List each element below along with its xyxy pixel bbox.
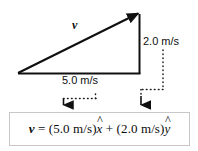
component-equation: v = (5.0 m/s)^x + (2.0 m/s)^y	[29, 121, 171, 137]
resultant-vector-arrow	[18, 14, 138, 74]
equation-term-1: 5.0 m/s	[53, 121, 92, 136]
x-component-label: 5.0 m/s	[62, 75, 98, 86]
vector-diagram-figure: 2.0 m/s 5.0 m/s v v = (5.0 m/s)^x + (2.0…	[0, 0, 198, 151]
x-hat-caret: ^	[97, 113, 103, 128]
equation-box: v = (5.0 m/s)^x + (2.0 m/s)^y	[9, 112, 190, 146]
y-component-dotted-connector	[141, 50, 163, 97]
y-component-label: 2.0 m/s	[143, 36, 179, 47]
y-hat-caret: ^	[165, 113, 171, 128]
resultant-vector-label: v	[72, 19, 77, 31]
y-hat-unit-vector: ^y	[164, 121, 170, 137]
equation-term-2: 2.0 m/s	[121, 121, 160, 136]
x-hat-unit-vector: ^x	[97, 121, 103, 137]
x-component-dotted-connector	[64, 92, 97, 99]
